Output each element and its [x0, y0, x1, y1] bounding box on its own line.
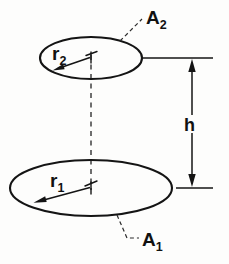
diagram-canvas: r2 A2 r1 A1 [0, 0, 229, 264]
lower-disk-center-mark [85, 181, 97, 194]
upper-area-label: A2 [146, 7, 167, 32]
upper-area-leader-line [120, 19, 142, 41]
lower-radius-label: r1 [50, 170, 64, 195]
dimension-arrowhead-up [188, 59, 195, 72]
dimension-arrowhead-down [188, 174, 195, 187]
lower-area-label: A1 [142, 229, 163, 254]
radiation-view-factor-diagram: r2 A2 r1 A1 [0, 0, 229, 264]
separation-label: h [184, 115, 195, 135]
upper-radius-label: r2 [52, 43, 66, 68]
lower-area-leader-line [117, 215, 139, 238]
